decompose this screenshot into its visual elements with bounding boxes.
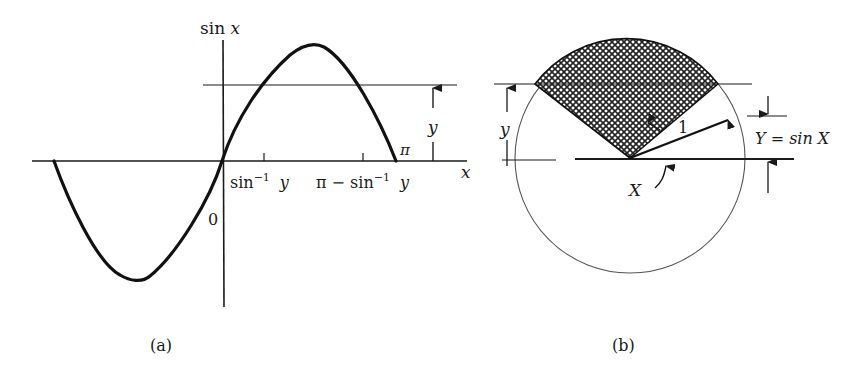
pi-label: π <box>399 141 411 159</box>
panel-a-sine-graph: sin x x 0 π y sin−1y π − sin−1y (a) <box>32 18 471 355</box>
angle-label: X <box>627 180 642 200</box>
origin-label: 0 <box>208 210 218 229</box>
x-axis-label: x <box>461 162 471 182</box>
level-label-y-b: y <box>499 119 510 139</box>
y-axis-label: sin x <box>200 18 241 38</box>
radius-label: 1 <box>678 118 688 137</box>
figure-canvas: sin x x 0 π y sin−1y π − sin−1y (a) <box>0 0 861 374</box>
hatched-sector <box>535 39 718 158</box>
height-label: Y = sin X <box>755 129 830 148</box>
sine-curve <box>54 45 396 281</box>
tick-label-arcsin-y: sin−1y <box>230 171 290 192</box>
caption-b: (b) <box>612 336 635 355</box>
panel-b-circle-diagram: 1 X y Y = sin X (b) <box>494 39 830 355</box>
y-axis <box>223 40 224 307</box>
angle-arrow <box>655 166 666 188</box>
caption-a: (a) <box>150 336 172 355</box>
level-label-y: y <box>427 117 438 137</box>
tick-label-pi-minus-arcsin-y: π − sin−1y <box>316 171 410 192</box>
